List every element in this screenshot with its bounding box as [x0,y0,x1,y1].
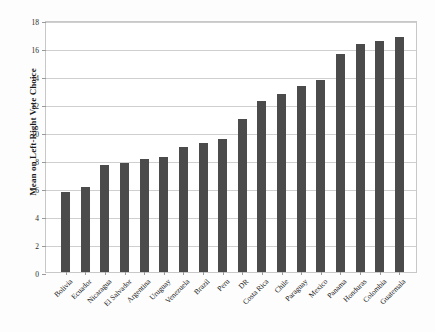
y-tick-mark [42,106,46,107]
y-tick-label: 0 [35,270,39,279]
bar [218,139,227,272]
bar [375,41,384,272]
y-tick-label: 18 [32,18,40,27]
y-tick-mark [42,50,46,51]
y-tick-label: 10 [32,130,40,139]
bar [336,54,345,272]
bar [100,165,109,272]
bar-chart-figure: Mean on Left-Right Vote Choice 024681012… [0,0,435,332]
x-tick-label-text: Brazil [192,277,211,296]
bar [179,147,188,272]
plot-area: 024681012141618 [45,21,417,273]
y-tick-label: 6 [35,186,39,195]
y-tick-mark [42,162,46,163]
bar [257,101,266,272]
y-tick-mark [42,78,46,79]
y-tick-label: 16 [32,46,40,55]
bar [395,37,404,272]
bar [199,143,208,272]
y-tick-label: 12 [32,102,40,111]
bar [277,94,286,272]
bar [356,44,365,272]
x-tick-label-text: DR [237,277,251,291]
x-tick-label-text: Peru [215,277,231,293]
y-tick-label: 8 [35,158,39,167]
y-tick-mark [42,190,46,191]
y-tick-mark [42,218,46,219]
x-axis-labels: BoliviaEcuadorNicaraguaEl SalvadorArgent… [45,274,417,332]
bar [81,187,90,272]
bar [238,119,247,272]
y-tick-mark [42,246,46,247]
y-tick-mark [42,134,46,135]
y-tick-label: 4 [35,214,39,223]
bar [316,80,325,272]
gridline [46,22,416,23]
y-tick-label: 14 [32,74,40,83]
y-tick-mark [42,22,46,23]
y-tick-label: 2 [35,242,39,251]
bar [297,86,306,272]
bar [61,192,70,272]
